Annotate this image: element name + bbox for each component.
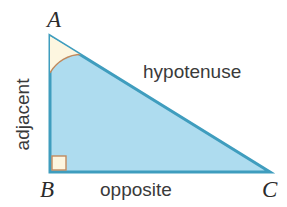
- vertex-label-c: C: [262, 178, 277, 201]
- triangle-shape: [50, 36, 270, 172]
- side-label-adjacent: adjacent: [13, 79, 32, 151]
- vertex-label-a: A: [47, 8, 61, 31]
- side-label-opposite: opposite: [100, 180, 172, 199]
- vertex-label-b: B: [40, 178, 54, 201]
- triangle-graphic: [0, 0, 287, 207]
- right-angle-marker-b: [52, 156, 66, 170]
- side-label-hypotenuse: hypotenuse: [143, 62, 241, 81]
- triangle-diagram: A B C hypotenuse opposite adjacent: [0, 0, 287, 207]
